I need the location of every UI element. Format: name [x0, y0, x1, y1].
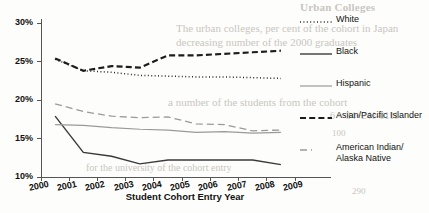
legend-label: American Indian/Alaska Native: [334, 142, 404, 164]
legend-label: Hispanic: [334, 78, 371, 89]
legend-key-icon: [300, 78, 334, 90]
legend-key-icon: [300, 142, 334, 154]
legend-label-line2: Alaska Native: [336, 153, 404, 164]
y-axis-tick-label: 10%: [3, 171, 33, 181]
series-line: [55, 125, 281, 133]
y-axis-tick-label: 25%: [3, 56, 33, 66]
legend-label: Asian/Pacific Islander: [334, 110, 422, 121]
legend-key-icon: [300, 46, 334, 58]
x-axis-title: Student Cohort Entry Year: [60, 191, 310, 202]
series-line: [55, 104, 281, 131]
chart-figure: Urban Colleges The urban colleges, per c…: [0, 0, 429, 213]
legend-label: White: [334, 14, 359, 25]
legend-key-icon: [300, 14, 334, 26]
y-axis-tick-label: 15%: [3, 133, 33, 143]
series-line: [55, 59, 281, 78]
legend-item[interactable]: Black: [300, 46, 358, 58]
legend-label: Black: [334, 46, 358, 57]
legend-key-icon: [300, 110, 334, 122]
y-axis-tick-label: 20%: [3, 94, 33, 104]
series-line: [55, 116, 281, 165]
legend-item[interactable]: Asian/Pacific Islander: [300, 110, 422, 122]
y-axis-tick-label: 30%: [3, 17, 33, 27]
data-series: [55, 51, 281, 165]
series-line: [55, 51, 281, 71]
plot-area: 10%15%20%25%30% 200020012002200320042005…: [0, 0, 429, 213]
legend-item[interactable]: American Indian/Alaska Native: [300, 142, 404, 164]
legend-item[interactable]: Hispanic: [300, 78, 371, 90]
axes: [37, 19, 331, 181]
legend-item[interactable]: White: [300, 14, 359, 26]
